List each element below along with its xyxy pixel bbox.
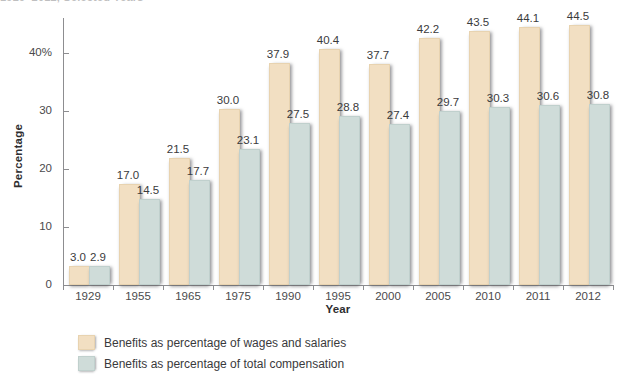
x-tick-label-2011: 2011 <box>513 290 563 302</box>
benefits-bar-chart: 1929–2012, Selected Years 010203040% Per… <box>0 0 620 380</box>
bar-1990-a <box>269 63 290 285</box>
x-tick-label-1965: 1965 <box>163 290 213 302</box>
legend-swatch <box>78 356 95 371</box>
bar-value-label: 30.6 <box>532 90 565 102</box>
legend-label: Benefits as percentage of total compensa… <box>104 357 344 371</box>
bar-value-label: 37.7 <box>362 49 395 61</box>
bar-1990-b <box>289 123 310 285</box>
bar-value-label: 21.5 <box>162 143 195 155</box>
bar-value-label: 30.8 <box>582 89 615 101</box>
x-axis-line <box>63 285 613 286</box>
figure-title: 1929–2012, Selected Years <box>0 0 144 3</box>
y-tick-label: 10 <box>0 220 52 232</box>
bar-2011-a <box>519 27 540 285</box>
bar-value-label: 44.1 <box>512 12 545 24</box>
bar-2012-a <box>569 25 590 285</box>
bar-1929-a <box>69 266 90 285</box>
x-tick-label-1995: 1995 <box>313 290 363 302</box>
x-tick-label-2000: 2000 <box>363 290 413 302</box>
bar-value-label: 17.0 <box>112 169 145 181</box>
bar-2005-a <box>419 38 440 285</box>
bar-2012-b <box>589 104 610 285</box>
legend-label: Benefits as percentage of wages and sala… <box>104 336 346 350</box>
bar-1995-a <box>319 49 340 285</box>
legend-item: Benefits as percentage of wages and sala… <box>78 332 346 353</box>
bar-value-label: 17.7 <box>182 165 215 177</box>
bar-2010-b <box>489 107 510 285</box>
y-tick-label: 30 <box>0 104 52 116</box>
bar-value-label: 42.2 <box>412 23 445 35</box>
bar-value-label: 30.3 <box>482 92 515 104</box>
bar-value-label: 37.9 <box>262 48 295 60</box>
x-tick-label-2010: 2010 <box>463 290 513 302</box>
bar-1955-a <box>119 184 140 285</box>
y-tick-label: 20 <box>0 162 52 174</box>
bar-1929-b <box>89 266 110 285</box>
plot-area: 3.02.917.014.521.517.730.023.137.927.540… <box>63 18 613 285</box>
bar-value-label: 30.0 <box>212 94 245 106</box>
legend-item: Benefits as percentage of total compensa… <box>78 353 346 374</box>
y-tick-label: 0 <box>0 278 52 290</box>
bar-value-label: 2.9 <box>82 251 115 263</box>
bar-value-label: 27.4 <box>382 109 415 121</box>
bar-value-label: 44.5 <box>562 10 595 22</box>
bar-2000-a <box>369 64 390 285</box>
bar-2005-b <box>439 111 460 285</box>
x-tick-label-1990: 1990 <box>263 290 313 302</box>
bar-value-label: 14.5 <box>132 184 165 196</box>
bar-value-label: 23.1 <box>232 134 265 146</box>
bar-1965-b <box>189 180 210 285</box>
bar-value-label: 27.5 <box>282 108 315 120</box>
bar-2010-a <box>469 31 490 285</box>
bar-1955-b <box>139 199 160 285</box>
x-tick-label-1929: 1929 <box>63 290 113 302</box>
x-tick-label-2005: 2005 <box>413 290 463 302</box>
bar-value-label: 43.5 <box>462 16 495 28</box>
bar-value-label: 29.7 <box>432 96 465 108</box>
bar-1975-b <box>239 149 260 285</box>
bar-1995-b <box>339 116 360 285</box>
chart-legend: Benefits as percentage of wages and sala… <box>78 332 346 374</box>
y-tick-label: 40% <box>0 46 52 58</box>
bar-2000-b <box>389 124 410 285</box>
x-axis-label: Year <box>63 303 613 315</box>
y-axis-label: Percentage <box>12 111 24 201</box>
x-tick-mark <box>613 285 614 290</box>
bar-2011-b <box>539 105 560 285</box>
x-tick-label-1975: 1975 <box>213 290 263 302</box>
x-tick-label-2012: 2012 <box>563 290 613 302</box>
x-tick-label-1955: 1955 <box>113 290 163 302</box>
bar-value-label: 28.8 <box>332 101 365 113</box>
legend-swatch <box>78 335 95 350</box>
bar-value-label: 40.4 <box>312 34 345 46</box>
